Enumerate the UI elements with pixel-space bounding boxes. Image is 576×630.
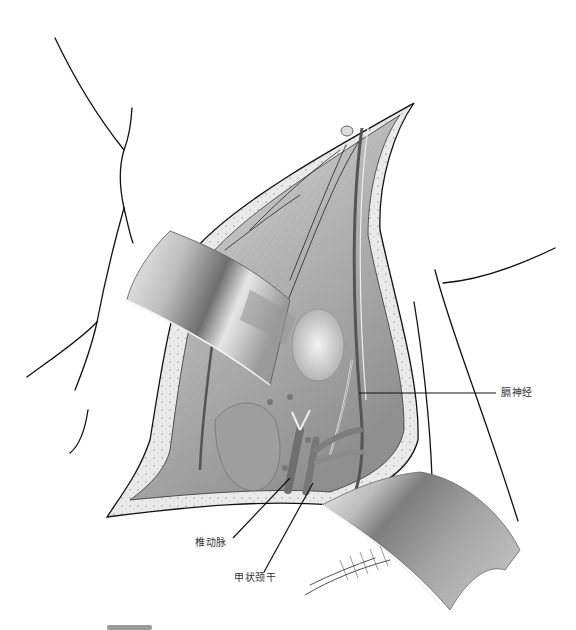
scale-bar [107, 625, 152, 630]
label-vertebral-artery: 椎动脉 [195, 537, 227, 549]
label-thyrocervical-trunk: 甲状颈干 [234, 572, 276, 584]
body-outline-left [27, 38, 133, 453]
label-phrenic-nerve: 膈神经 [501, 387, 533, 399]
neck-dissection-illustration [0, 0, 576, 630]
illustration-canvas: 膈神经 椎动脉 甲状颈干 [0, 0, 576, 630]
